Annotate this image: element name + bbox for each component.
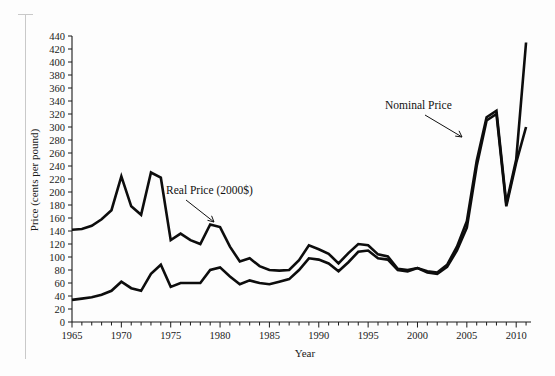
x-tick-label: 1970 xyxy=(111,330,132,341)
x-tick-label: 2005 xyxy=(456,330,477,341)
y-tick-label: 360 xyxy=(49,83,65,94)
y-tick-label: 200 xyxy=(49,187,65,198)
x-tick-label: 1980 xyxy=(210,330,231,341)
y-axis: 0204060801001201401601802002202402602803… xyxy=(49,31,72,328)
x-tick-label: 2000 xyxy=(407,330,428,341)
y-tick-label: 280 xyxy=(49,135,65,146)
x-axis: 1965197019751980198519901995200020052010 xyxy=(62,322,532,341)
x-tick-label: 2010 xyxy=(506,330,527,341)
y-tick-label: 180 xyxy=(49,200,65,211)
x-axis-title: Year xyxy=(295,347,316,359)
y-tick-label: 340 xyxy=(49,96,65,107)
price-line-chart: 0204060801001201401601802002202402602803… xyxy=(0,0,555,376)
nominal-price-annotation-label: Nominal Price xyxy=(385,99,452,111)
y-tick-label: 320 xyxy=(49,109,65,120)
y-tick-label: 400 xyxy=(49,57,65,68)
x-tick-label: 1985 xyxy=(259,330,280,341)
y-tick-label: 260 xyxy=(49,148,65,159)
y-tick-label: 20 xyxy=(55,304,66,315)
y-tick-label: 60 xyxy=(55,278,66,289)
real-price-annotation-label: Real Price (2000$) xyxy=(166,184,253,197)
y-tick-label: 0 xyxy=(60,317,65,328)
y-tick-label: 40 xyxy=(55,291,66,302)
y-tick-label: 240 xyxy=(49,161,65,172)
y-tick-label: 420 xyxy=(49,44,65,55)
x-tick-label: 1965 xyxy=(62,330,83,341)
y-axis-title: Price (cents per pound) xyxy=(28,129,41,232)
y-tick-label: 80 xyxy=(55,265,66,276)
series-line-real-price xyxy=(72,114,526,274)
x-tick-label: 1990 xyxy=(308,330,329,341)
y-tick-label: 380 xyxy=(49,70,65,81)
figure-page: 0204060801001201401601802002202402602803… xyxy=(0,0,555,376)
x-tick-label: 1995 xyxy=(358,330,379,341)
y-tick-label: 120 xyxy=(49,239,65,250)
y-tick-label: 100 xyxy=(49,252,65,263)
y-tick-label: 300 xyxy=(49,122,65,133)
nominal-price-annotation-arrow xyxy=(425,115,462,137)
y-tick-label: 220 xyxy=(49,174,65,185)
y-tick-label: 440 xyxy=(49,31,65,42)
real-price-annotation-arrow xyxy=(186,200,214,222)
y-tick-label: 160 xyxy=(49,213,65,224)
series-lines xyxy=(72,43,526,300)
x-tick-label: 1975 xyxy=(160,330,181,341)
y-tick-label: 140 xyxy=(49,226,65,237)
